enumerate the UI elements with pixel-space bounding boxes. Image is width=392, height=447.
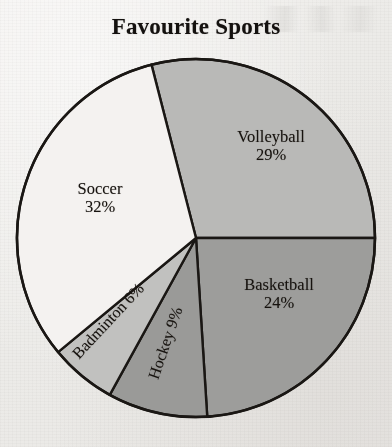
pie-chart [0, 0, 392, 447]
page-background: Favourite Sports Volleyball 29% Basketba… [0, 0, 392, 447]
pie-chart-svg [0, 0, 392, 447]
slice-label-basketball-name: Basketball [244, 275, 314, 294]
slice-label-soccer-name: Soccer [78, 179, 123, 198]
slice-label-volleyball: Volleyball 29% [196, 128, 346, 165]
slice-label-soccer: Soccer 32% [40, 180, 160, 217]
slice-label-soccer-percent: 32% [40, 198, 160, 216]
slice-label-volleyball-name: Volleyball [237, 127, 305, 146]
pie-slice-basketball[interactable] [196, 238, 375, 417]
pie-slice-group [17, 59, 375, 417]
slice-label-volleyball-percent: 29% [196, 146, 346, 164]
slice-label-basketball-percent: 24% [204, 294, 354, 312]
slice-label-basketball: Basketball 24% [204, 276, 354, 313]
